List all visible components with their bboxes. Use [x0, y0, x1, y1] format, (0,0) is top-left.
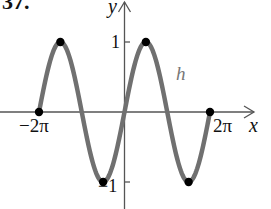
data-point — [56, 38, 64, 46]
curve-label-h: h — [176, 64, 186, 83]
y-axis-label: y — [108, 0, 117, 16]
x-tick-label-neg-two-pi: −2π — [19, 116, 49, 135]
y-tick-label-1: 1 — [111, 33, 120, 51]
y-tick-label-neg1: −1 — [98, 177, 117, 195]
data-point — [184, 178, 192, 186]
data-point — [142, 38, 150, 46]
graph-canvas — [0, 0, 271, 209]
x-axis-label: x — [249, 115, 258, 135]
x-tick-label-two-pi: 2π — [213, 116, 232, 135]
